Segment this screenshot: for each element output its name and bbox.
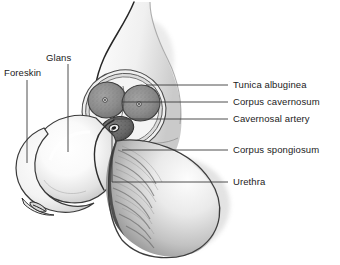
label-foreskin: Foreskin [4, 67, 41, 78]
label-tunica-albuginea: Tunica albuginea [233, 79, 307, 90]
scrotum [100, 140, 220, 258]
label-corpus-spongiosum: Corpus spongiosum [233, 144, 319, 155]
label-corpus-cavernosum: Corpus cavernosum [233, 96, 320, 107]
label-urethra: Urethra [233, 176, 265, 187]
anatomy-illustration [0, 0, 340, 265]
label-glans: Glans [46, 52, 71, 63]
label-cavernosal-artery: Cavernosal artery [233, 113, 310, 124]
anatomy-figure: Glans Foreskin Tunica albuginea Corpus c… [0, 0, 340, 265]
